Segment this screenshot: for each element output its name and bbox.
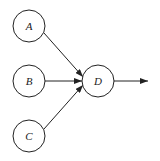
edge-a-d <box>44 33 83 77</box>
node-b: B <box>13 65 45 97</box>
node-c: C <box>13 120 45 152</box>
node-c-label: C <box>25 130 33 142</box>
node-a-label: A <box>25 20 33 32</box>
edge-c-d <box>44 85 83 129</box>
node-b-label: B <box>26 75 33 87</box>
node-d-label: D <box>93 75 102 87</box>
node-d: D <box>82 65 114 97</box>
node-a: A <box>13 10 45 42</box>
neural-diagram: A B C D <box>0 0 160 161</box>
